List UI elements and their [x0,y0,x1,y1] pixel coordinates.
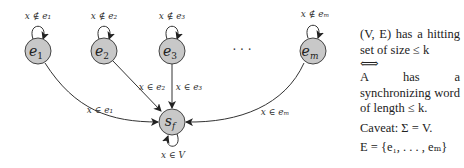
edge-set-definition: E = {e₁, . . . , eₘ} [360,140,460,156]
self-loop-em: x ∉ eₘ [301,9,329,38]
node-e3: e3 [159,38,185,64]
node-e1: e1 [25,38,51,64]
theorem-text: (V, E) has a hitting set of size ≤ k ⟺ A… [360,27,460,156]
edge-e3-to-sf: x ∈ e₃ [172,64,203,108]
self-loop-sf: x ∈ V [161,134,186,160]
edge-label-e3: x ∈ e₃ [176,82,203,92]
self-loop-e3: x ∉ e₃ [159,11,186,39]
edge-label-em: x ∈ eₘ [261,107,289,117]
self-loop-e1: x ∉ e₁ [25,11,51,39]
edge-e2-to-sf: x ∈ e₂ [113,61,166,111]
edge-label-e2: x ∈ e₂ [139,82,166,92]
self-loop-e2: x ∉ e₂ [91,11,118,39]
edge-e1-to-sf: x ∈ e₁ [45,63,158,122]
node-e2: e2 [91,38,117,64]
iff-symbol: ⟺ [360,58,460,70]
loop-label-sf: x ∈ V [161,150,186,160]
sync-word-statement: A has a synchronizing word of length ≤ k… [360,70,460,117]
edge-label-e1: x ∈ e₁ [87,105,113,115]
loop-label-e1: x ∉ e₁ [25,11,51,21]
edge-em-to-sf: x ∈ eₘ [186,63,304,122]
caveat-text: Caveat: Σ = V. [360,121,460,137]
loop-label-e3: x ∉ e₃ [159,11,186,21]
node-em: em [300,38,326,64]
loop-label-e2: x ∉ e₂ [91,11,118,21]
hitting-set-statement: (V, E) has a hitting set of size ≤ k [360,27,460,58]
ellipsis: · · · [232,43,251,57]
node-sf: sf [159,109,185,135]
loop-label-em: x ∉ eₘ [301,9,329,19]
